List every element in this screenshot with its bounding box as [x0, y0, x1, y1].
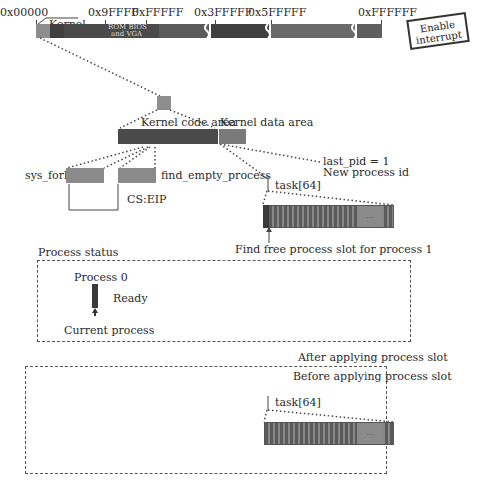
- sys-fork-block: [66, 168, 104, 183]
- before-applying-label: Before applying process slot: [293, 371, 452, 383]
- current-process-label: Current process: [64, 325, 154, 337]
- kernel-code-area: [118, 129, 218, 144]
- process-0-label: Process 0: [74, 272, 128, 284]
- cs-eip-label: CS:EIP: [127, 194, 166, 206]
- kernel-data-area: [219, 129, 246, 144]
- new-process-id-label: New process id: [323, 167, 409, 179]
- ready-label: Ready: [113, 293, 148, 305]
- task-array-top-ellipsis: ...: [357, 206, 383, 227]
- kernel-zoom-box: [157, 96, 171, 110]
- process-0-bar: [92, 284, 98, 308]
- kernel-data-area-label: Kernel data area: [220, 117, 313, 129]
- task-array-top-label: task[64]: [275, 180, 321, 192]
- after-applying-label: After applying process slot: [298, 352, 448, 364]
- task-array-bottom-label: task[64]: [275, 397, 321, 409]
- task-slot-0: [263, 205, 269, 228]
- find-empty-process-block: [118, 168, 156, 183]
- task-array-bottom-ellipsis: ...: [357, 423, 383, 444]
- process-status-title: Process status: [38, 247, 119, 259]
- find-free-slot-caption: Find free process slot for process 1: [235, 244, 433, 256]
- find-empty-process-label: find_empty_process: [161, 170, 271, 182]
- sys-fork-label: sys_fork: [25, 170, 71, 182]
